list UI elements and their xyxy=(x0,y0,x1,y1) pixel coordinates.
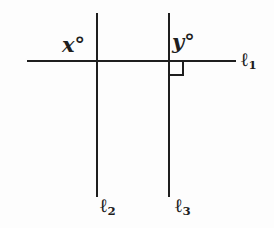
right-angle-marker xyxy=(170,62,184,76)
line-l3-symbol: ℓ xyxy=(175,194,182,216)
line-l3-label: ℓ3 xyxy=(175,196,190,215)
line-l1-horizontal xyxy=(27,60,236,62)
line-l1-subscript: 1 xyxy=(249,58,257,72)
angle-x-label: x° xyxy=(62,34,85,55)
angle-y-label: y° xyxy=(172,31,195,52)
line-l1-symbol: ℓ xyxy=(241,48,248,70)
line-l2-symbol: ℓ xyxy=(100,194,107,216)
line-l1-label: ℓ1 xyxy=(241,50,256,69)
line-l3-vertical xyxy=(168,13,170,197)
line-l2-vertical xyxy=(96,13,98,197)
geometry-diagram: x° y° ℓ1 ℓ2 ℓ3 xyxy=(0,0,274,228)
line-l2-subscript: 2 xyxy=(108,204,116,218)
line-l2-label: ℓ2 xyxy=(100,196,115,215)
line-l3-subscript: 3 xyxy=(183,204,191,218)
